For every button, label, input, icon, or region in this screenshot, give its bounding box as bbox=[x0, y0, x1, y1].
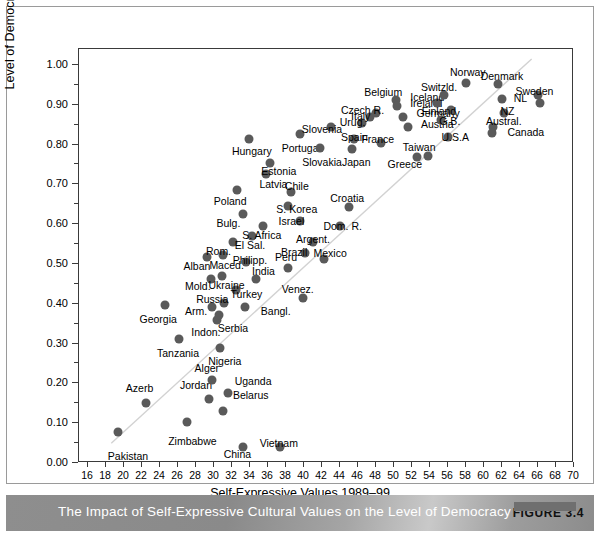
x-tick-mark bbox=[141, 462, 142, 467]
data-point-label: Mexico bbox=[313, 248, 346, 259]
data-point bbox=[216, 343, 225, 352]
data-point bbox=[233, 185, 242, 194]
x-tick-mark bbox=[231, 462, 232, 467]
x-tick-mark bbox=[483, 462, 484, 467]
x-tick-label: 28 bbox=[189, 469, 201, 481]
data-point bbox=[141, 398, 150, 407]
x-tick-label: 66 bbox=[531, 469, 543, 481]
x-tick-label: 30 bbox=[207, 469, 219, 481]
data-point-label: Latvia bbox=[259, 178, 287, 189]
data-point bbox=[347, 144, 356, 153]
x-tick-mark bbox=[429, 462, 430, 467]
data-point-label: Slovakia bbox=[302, 156, 342, 167]
data-point-label: Indon. bbox=[191, 326, 220, 337]
x-tick-label: 60 bbox=[477, 469, 489, 481]
y-tick-label: 0.40 bbox=[47, 297, 68, 309]
y-tick-label: 0.70 bbox=[47, 177, 68, 189]
x-tick-label: 18 bbox=[99, 469, 111, 481]
x-tick-label: 46 bbox=[351, 469, 363, 481]
data-point-label: France bbox=[361, 134, 394, 145]
data-point-label: Hungary bbox=[232, 146, 272, 157]
data-point-label: Belarus bbox=[233, 389, 269, 400]
data-point-label: Russia bbox=[196, 294, 228, 305]
data-point-label: Poland bbox=[214, 196, 247, 207]
x-tick-mark bbox=[393, 462, 394, 467]
data-point-label: Turkey bbox=[231, 289, 263, 300]
x-tick-label: 24 bbox=[153, 469, 165, 481]
x-tick-label: 34 bbox=[243, 469, 255, 481]
data-point-label: Philipp. bbox=[233, 255, 267, 266]
x-tick-label: 42 bbox=[315, 469, 327, 481]
x-tick-mark bbox=[267, 462, 268, 467]
data-point-label: Belgium bbox=[364, 87, 402, 98]
x-tick-mark bbox=[447, 462, 448, 467]
data-point-label: Tanzania bbox=[157, 348, 199, 359]
x-tick-mark bbox=[285, 462, 286, 467]
data-point bbox=[245, 134, 254, 143]
data-point-label: Zimbabwe bbox=[168, 435, 216, 446]
data-point-label: Estonia bbox=[261, 166, 296, 177]
y-tick-label: 0.20 bbox=[47, 376, 68, 388]
x-tick-mark bbox=[375, 462, 376, 467]
y-tick-label: 0.10 bbox=[47, 416, 68, 428]
data-point-label: India bbox=[252, 266, 275, 277]
data-point-label: S. Korea bbox=[276, 204, 317, 215]
x-axis-ticks: 1618202224262830323436384042444648505254… bbox=[78, 462, 573, 486]
x-tick-mark bbox=[159, 462, 160, 467]
figure-caption-bar: The Impact of Self-Expressive Cultural V… bbox=[6, 495, 594, 531]
x-tick-label: 44 bbox=[333, 469, 345, 481]
badge-tab-decoration bbox=[514, 502, 576, 511]
y-tick-label: 0.60 bbox=[47, 217, 68, 229]
data-point-label: U.S.A bbox=[441, 132, 468, 143]
data-point bbox=[183, 417, 192, 426]
data-point-label: China bbox=[224, 449, 251, 460]
data-point-label: Mold. bbox=[185, 281, 211, 292]
data-point-label: Rom. bbox=[206, 246, 231, 257]
data-point-label: Croatia bbox=[330, 193, 364, 204]
data-point bbox=[215, 311, 224, 320]
data-point bbox=[223, 388, 232, 397]
x-tick-label: 32 bbox=[225, 469, 237, 481]
x-tick-mark bbox=[87, 462, 88, 467]
data-point-label: Dom. R. bbox=[323, 220, 362, 231]
x-tick-mark bbox=[465, 462, 466, 467]
x-tick-mark bbox=[519, 462, 520, 467]
data-point bbox=[113, 428, 122, 437]
x-tick-mark bbox=[339, 462, 340, 467]
figure-page: Level of Democracy 2000–04 0.000.100.200… bbox=[0, 0, 600, 538]
x-tick-mark bbox=[321, 462, 322, 467]
data-point-label: Bangl. bbox=[261, 306, 291, 317]
data-point-label: Venez. bbox=[282, 284, 314, 295]
y-tick-label: 0.90 bbox=[47, 98, 68, 110]
x-tick-mark bbox=[357, 462, 358, 467]
x-tick-label: 52 bbox=[405, 469, 417, 481]
x-tick-label: 26 bbox=[171, 469, 183, 481]
data-point bbox=[283, 263, 292, 272]
x-tick-label: 48 bbox=[369, 469, 381, 481]
x-tick-label: 56 bbox=[441, 469, 453, 481]
x-tick-label: 62 bbox=[495, 469, 507, 481]
plot-area: PakistanAzerbZimbabweChinaVietnamBelarus… bbox=[78, 48, 573, 462]
data-point bbox=[404, 122, 413, 131]
data-point-label: Israel bbox=[279, 216, 305, 227]
x-tick-mark bbox=[177, 462, 178, 467]
data-point bbox=[316, 143, 325, 152]
x-tick-mark bbox=[105, 462, 106, 467]
data-point bbox=[424, 152, 433, 161]
data-point-label: Alban bbox=[183, 261, 210, 272]
data-point bbox=[174, 335, 183, 344]
x-tick-label: 16 bbox=[81, 469, 93, 481]
figure-caption-text: The Impact of Self-Expressive Cultural V… bbox=[58, 504, 511, 519]
data-point-label: G.B. bbox=[439, 116, 460, 127]
x-tick-mark bbox=[501, 462, 502, 467]
data-point-label: Uganda bbox=[235, 376, 272, 387]
x-tick-mark bbox=[537, 462, 538, 467]
x-tick-label: 38 bbox=[279, 469, 291, 481]
x-tick-label: 70 bbox=[567, 469, 579, 481]
data-point-label: Ukraine bbox=[209, 279, 245, 290]
data-point bbox=[535, 98, 544, 107]
x-tick-mark bbox=[555, 462, 556, 467]
data-point bbox=[488, 129, 497, 138]
data-point bbox=[208, 376, 217, 385]
data-point-label: Nigeria bbox=[208, 356, 241, 367]
